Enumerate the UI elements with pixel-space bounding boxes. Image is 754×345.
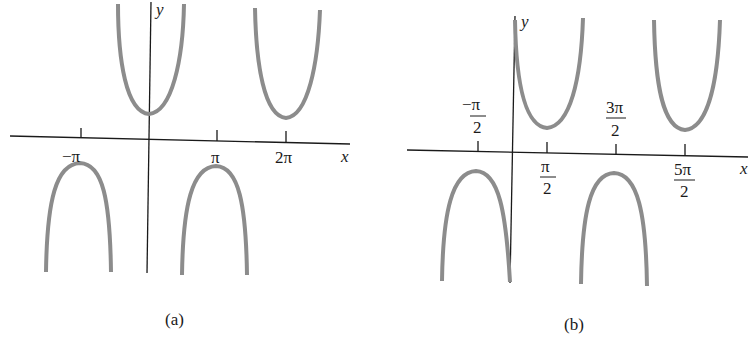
x-axis-label-a: x [340, 147, 349, 166]
tick-label-neg-pi-a: −π [62, 147, 81, 166]
tick-label-neg-pi-2-den: 2 [473, 118, 482, 137]
sec-branch-neg-pi [46, 163, 111, 272]
figure-canvas: y x −π π 2π (a) y x −π 2 π 2 3π 2 [0, 0, 754, 345]
y-axis-a [147, 2, 151, 273]
tick-label-pi-2-num: π [541, 157, 550, 176]
y-axis-b [510, 16, 515, 283]
tick-label-pi-a: π [211, 148, 220, 167]
sec-branch-2pi [255, 8, 320, 118]
tick-label-5pi-2-num: 5π [674, 160, 692, 179]
tick-label-neg-pi-2-num: −π [462, 95, 481, 114]
tick-label-5pi-2-den: 2 [680, 182, 689, 201]
csc-branch-neg-pi-2 [442, 171, 510, 282]
panel-a: y x −π π 2π (a) [10, 0, 350, 329]
x-axis-b [407, 150, 748, 157]
x-axis-a [10, 136, 350, 144]
panel-b: y x −π 2 π 2 3π 2 5π 2 (b) [407, 12, 748, 334]
y-axis-label-a: y [154, 0, 164, 19]
csc-branch-5pi-2 [654, 20, 720, 130]
x-axis-label-b: x [739, 159, 748, 178]
caption-b: (b) [564, 315, 584, 334]
sec-branch-pi [182, 166, 247, 275]
tick-label-2pi-a: 2π [275, 148, 293, 167]
tick-label-3pi-2-den: 2 [611, 121, 620, 140]
csc-branch-3pi-2 [581, 173, 647, 286]
tick-label-pi-2-den: 2 [543, 179, 552, 198]
caption-a: (a) [165, 310, 184, 329]
csc-branch-pi-2 [515, 18, 583, 128]
y-axis-label-b: y [519, 12, 529, 31]
tick-label-3pi-2-num: 3π [606, 98, 624, 117]
